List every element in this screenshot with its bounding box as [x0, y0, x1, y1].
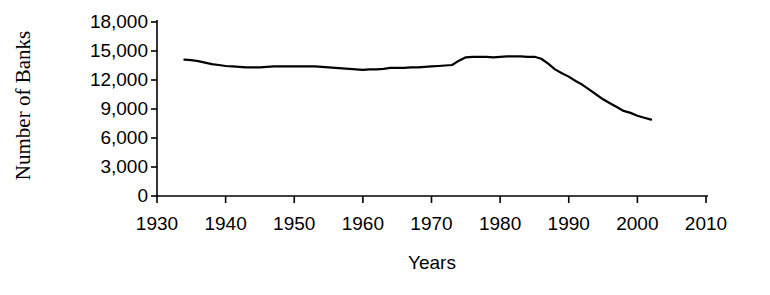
x-axis-title: Years — [157, 252, 707, 274]
axis-lines — [157, 20, 708, 196]
bank-count-line-chart: Number of Banks 03,0006,0009,00012,00015… — [0, 0, 770, 295]
y-axis-tick-marks — [151, 22, 157, 196]
x-axis-tick-labels: 193019401950196019701980199020002010 — [0, 213, 770, 239]
x-axis-tick-marks — [157, 196, 706, 203]
data-series-group — [184, 56, 651, 119]
x-tick-label: 2010 — [666, 213, 746, 235]
number-of-banks-line — [184, 56, 651, 119]
plot-area — [0, 0, 770, 295]
